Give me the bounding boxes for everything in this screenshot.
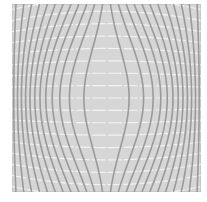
warped-grid-graphic [12, 4, 201, 192]
warped-grid-figure [12, 4, 201, 192]
